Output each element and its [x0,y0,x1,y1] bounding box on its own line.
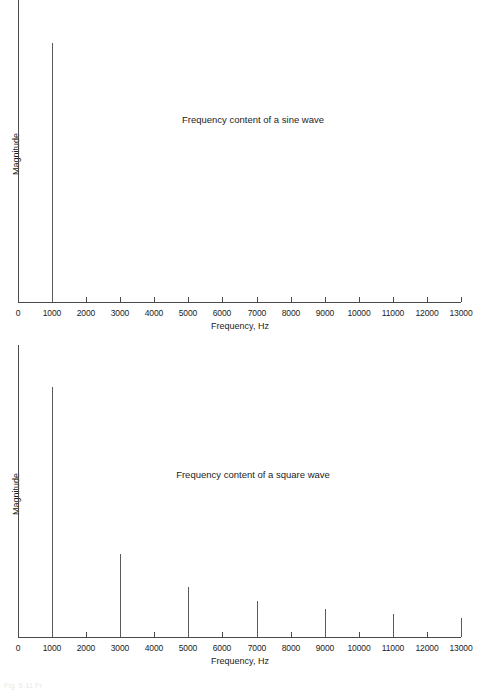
x-tick-label-sine-9000: 9000 [316,308,335,318]
x-tick-sine-3000 [120,297,121,302]
y-axis-title-square: Magnitude [11,473,21,515]
plot-area-sine: Magnitude Frequency content of a sine wa… [0,0,477,345]
x-tick-label-sine-10000: 10000 [347,308,370,318]
figure-page: Magnitude Frequency content of a sine wa… [0,0,477,690]
spike-square-7000hz [257,601,258,637]
x-tick-label-square-11000: 11000 [382,643,405,653]
x-tick-label-sine-12000: 12000 [415,308,438,318]
spike-square-9000hz [325,609,326,637]
y-axis-line-square [18,345,19,638]
x-tick-label-square-4000: 4000 [145,643,164,653]
x-tick-label-sine-3000: 3000 [111,308,130,318]
spike-sine-1000hz [52,43,53,302]
x-tick-label-square-3000: 3000 [111,643,130,653]
x-tick-label-square-12000: 12000 [415,643,438,653]
plot-area-square: Magnitude Frequency content of a square … [0,345,477,690]
x-tick-label-sine-0: 0 [16,308,21,318]
y-axis-title-sine: Magnitude [11,133,21,175]
x-tick-square-6000 [222,632,223,637]
x-axis-line-sine [18,302,461,303]
spike-square-3000hz [120,554,121,637]
x-tick-sine-5000 [188,297,189,302]
x-tick-label-sine-11000: 11000 [382,308,405,318]
x-tick-square-12000 [427,632,428,637]
x-tick-label-sine-4000: 4000 [145,308,164,318]
spike-square-5000hz [188,587,189,637]
spike-square-1000hz [52,387,53,637]
x-tick-sine-9000 [325,297,326,302]
x-tick-label-sine-2000: 2000 [77,308,96,318]
x-tick-label-square-0: 0 [16,643,21,653]
x-tick-sine-4000 [154,297,155,302]
x-tick-label-square-5000: 5000 [179,643,198,653]
x-axis-title-sine: Frequency, Hz [211,321,269,331]
x-tick-label-square-7000: 7000 [248,643,267,653]
x-tick-label-square-10000: 10000 [347,643,370,653]
x-tick-sine-6000 [222,297,223,302]
plot-title-square: Frequency content of a square wave [176,469,330,480]
x-tick-sine-0 [18,297,19,302]
x-tick-sine-2000 [86,297,87,302]
plot-title-sine: Frequency content of a sine wave [182,114,324,125]
x-tick-sine-7000 [257,297,258,302]
y-axis-line-sine [18,0,19,303]
x-tick-label-sine-5000: 5000 [179,308,198,318]
spike-square-13000hz [461,618,462,637]
chart-sine-wave: Magnitude Frequency content of a sine wa… [0,0,477,345]
x-tick-label-sine-1000: 1000 [43,308,62,318]
x-tick-sine-8000 [291,297,292,302]
spike-square-11000hz [393,614,394,637]
x-tick-label-sine-6000: 6000 [213,308,232,318]
x-tick-label-square-9000: 9000 [316,643,335,653]
x-tick-sine-10000 [359,297,360,302]
x-tick-label-sine-13000: 13000 [449,308,472,318]
x-tick-label-square-1000: 1000 [43,643,62,653]
x-tick-square-2000 [86,632,87,637]
x-tick-square-10000 [359,632,360,637]
x-tick-sine-13000 [461,297,462,302]
x-tick-square-0 [18,632,19,637]
x-tick-label-square-6000: 6000 [213,643,232,653]
x-tick-label-square-8000: 8000 [282,643,301,653]
x-axis-line-square [18,637,461,638]
x-axis-title-square: Frequency, Hz [211,656,269,666]
x-tick-square-8000 [291,632,292,637]
x-tick-square-4000 [154,632,155,637]
x-tick-label-sine-8000: 8000 [282,308,301,318]
x-tick-sine-12000 [427,297,428,302]
x-tick-label-square-13000: 13000 [449,643,472,653]
x-tick-label-square-2000: 2000 [77,643,96,653]
figure-caption-partial: Fig. 5-11 Fr [4,681,184,690]
x-tick-label-sine-7000: 7000 [248,308,267,318]
chart-square-wave: Magnitude Frequency content of a square … [0,345,477,690]
x-tick-sine-11000 [393,297,394,302]
